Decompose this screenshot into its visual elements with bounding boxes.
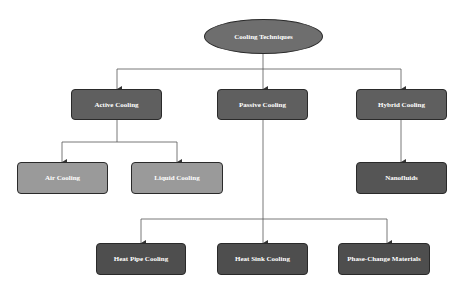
node-liquid-cooling: Liquid Cooling: [131, 162, 223, 194]
node-hybrid-cooling: Hybrid Cooling: [356, 89, 447, 120]
node-heat-pipe-cooling: Heat Pipe Cooling: [96, 243, 186, 275]
node-heat-sink-cooling: Heat Sink Cooling: [217, 243, 308, 275]
node-active-cooling: Active Cooling: [71, 89, 162, 120]
node-phase-change-materials: Phase-Change Materials: [338, 243, 430, 275]
node-nanofluids: Nanofluids: [356, 162, 447, 194]
node-passive-cooling: Passive Cooling: [217, 89, 308, 120]
node-air-cooling: Air Cooling: [17, 162, 108, 194]
node-cooling-techniques: Cooling Techniques: [204, 19, 323, 54]
